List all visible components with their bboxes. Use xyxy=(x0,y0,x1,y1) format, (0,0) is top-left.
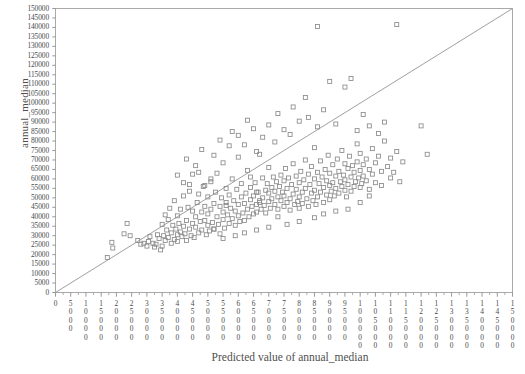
x-tick-label: 40000 xyxy=(170,300,184,342)
identity-reference-line xyxy=(56,9,513,293)
x-tick-label: 140000 xyxy=(475,300,489,350)
x-tick-label: 20000 xyxy=(109,300,123,342)
y-tick-label: 70000 xyxy=(31,156,49,163)
x-tick-label: 10000 xyxy=(79,300,93,342)
x-tick-label: 75000 xyxy=(277,300,291,342)
y-tick-label: 60000 xyxy=(31,175,49,182)
x-tick-label: 85000 xyxy=(307,300,321,342)
y-tick-label: 140000 xyxy=(27,23,49,30)
data-points xyxy=(105,23,429,260)
scatter-plot-figure: 0500010000150002000025000300003500040000… xyxy=(0,0,525,374)
y-tick-label: 90000 xyxy=(31,118,49,125)
y-tick-label: 75000 xyxy=(31,147,49,154)
y-tick-label: 120000 xyxy=(27,61,49,68)
x-tick-label: 95000 xyxy=(338,300,352,342)
y-tick-label: 135000 xyxy=(27,33,49,40)
y-tick-label: 145000 xyxy=(27,14,49,21)
y-tick-label: 45000 xyxy=(31,203,49,210)
y-tick-label: 55000 xyxy=(31,184,49,191)
x-tick-label: 115000 xyxy=(399,300,413,350)
y-tick-label: 50000 xyxy=(31,194,49,201)
x-axis-title: Predicted value of annual_median xyxy=(150,351,430,363)
y-axis-title: annual_median xyxy=(18,43,30,183)
y-tick-label: 20000 xyxy=(31,251,49,258)
y-tick-label: 105000 xyxy=(27,90,49,97)
y-tick-label: 85000 xyxy=(31,128,49,135)
y-tick-label: 100000 xyxy=(27,99,49,106)
x-tick-label: 90000 xyxy=(323,300,337,342)
y-tick-label: 5000 xyxy=(35,279,49,286)
x-tick-label: 80000 xyxy=(292,300,306,342)
y-tick-label: 125000 xyxy=(27,52,49,59)
x-tick-label: 105000 xyxy=(368,300,382,350)
y-tick-label: 130000 xyxy=(27,42,49,49)
x-tick-label: 25000 xyxy=(125,300,139,342)
x-tick-label: 125000 xyxy=(429,300,443,350)
y-tick-label: 65000 xyxy=(31,165,49,172)
y-tick-label: 150000 xyxy=(27,5,49,12)
x-tick-label: 100000 xyxy=(353,300,367,350)
y-tick-label: 10000 xyxy=(31,270,49,277)
y-tick-label: 110000 xyxy=(28,80,49,87)
x-tick-label: 65000 xyxy=(247,300,261,342)
x-tick-label: 135000 xyxy=(460,300,474,350)
y-tick-label: 95000 xyxy=(31,109,49,116)
x-tick-label: 130000 xyxy=(445,300,459,350)
x-tick-label: 60000 xyxy=(231,300,245,342)
y-tick-label: 30000 xyxy=(31,232,49,239)
x-tick-label: 15000 xyxy=(94,300,108,342)
x-tick-label: 70000 xyxy=(262,300,276,342)
x-tick-label: 30000 xyxy=(140,300,154,342)
x-tick-label: 45000 xyxy=(186,300,200,342)
x-tick-label: 50000 xyxy=(201,300,215,342)
x-tick-label: 150000 xyxy=(506,300,520,350)
y-tick-label: 25000 xyxy=(31,241,49,248)
x-axis-tick-labels: 0500010000150002000025000300003500040000… xyxy=(0,300,525,356)
x-tick-label: 145000 xyxy=(490,300,504,350)
x-tick-label: 5000 xyxy=(64,300,78,334)
y-tick-label: 15000 xyxy=(31,260,49,267)
x-tick-label: 110000 xyxy=(384,300,398,350)
y-tick-label: 40000 xyxy=(31,213,49,220)
x-tick-label: 55000 xyxy=(216,300,230,342)
y-tick-label: 0 xyxy=(45,289,49,296)
y-tick-label: 35000 xyxy=(31,222,49,229)
x-tick-label: 120000 xyxy=(414,300,428,350)
x-tick-label: 0 xyxy=(49,300,63,308)
x-tick-label: 35000 xyxy=(155,300,169,342)
y-tick-label: 115000 xyxy=(28,71,49,78)
y-tick-label: 80000 xyxy=(31,137,49,144)
